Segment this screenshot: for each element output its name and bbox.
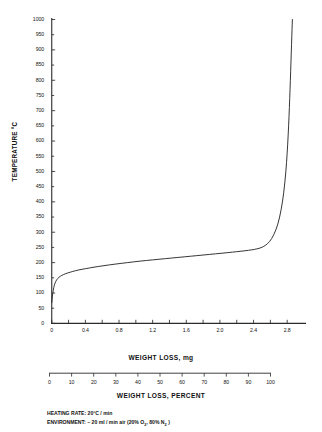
y-tick-label: 600 (36, 138, 44, 143)
percent-tick-label: 20 (91, 380, 97, 385)
y-tick-label: 300 (36, 230, 44, 235)
heating-rate-label: HEATING RATE: (47, 410, 86, 416)
x-tick-label: 0 (50, 328, 53, 333)
x-tick-label: 1.6 (183, 328, 190, 333)
percent-axis-ticks (50, 373, 271, 376)
y-axis-ticks (52, 20, 55, 324)
chart-notes: HEATING RATE: 20°C / min ENVIRONMENT: ~ … (47, 409, 170, 429)
environment-value-post: ) (167, 419, 170, 425)
percent-tick-label: 80 (224, 380, 230, 385)
tga-chart-figure: 0501001502002503003504004505005506006507… (0, 0, 322, 432)
percent-axis: 0102030405060708090100 (49, 372, 271, 388)
axis-lines (51, 18, 306, 324)
y-tick-label: 700 (36, 108, 44, 113)
y-axis-title: TEMPERATURE °C (11, 107, 18, 197)
heating-rate-value: 20°C / min (88, 410, 113, 416)
y-tick-label: 50 (38, 306, 44, 311)
y-tick-label: 1000 (33, 17, 44, 22)
percent-tick-label: 50 (157, 380, 163, 385)
percent-tick-label: 30 (113, 380, 119, 385)
x-tick-label: 2.0 (216, 328, 223, 333)
y-tick-label: 200 (36, 260, 44, 265)
y-tick-label: 650 (36, 123, 44, 128)
percent-tick-label: 100 (266, 380, 274, 385)
tga-curve (52, 20, 293, 303)
x-tick-label: 2.8 (284, 328, 291, 333)
y-tick-label: 750 (36, 93, 44, 98)
y-tick-label: 550 (36, 154, 44, 159)
environment-value-pre: ~ 20 ml / min air (20% O (87, 419, 144, 425)
percent-tick-label: 90 (246, 380, 252, 385)
percent-tick-label: 0 (48, 380, 51, 385)
y-tick-label: 100 (36, 290, 44, 295)
environment-value-mid: , 80% N (146, 419, 164, 425)
y-tick-label: 400 (36, 199, 44, 204)
x-axis-mg-tick-labels: 00.40.81.21.62.02.42.8 (51, 328, 306, 338)
y-tick-label: 150 (36, 275, 44, 280)
percent-tick-label: 70 (201, 380, 207, 385)
x-tick-label: 0.8 (116, 328, 123, 333)
plot-svg (51, 18, 306, 324)
y-tick-label: 250 (36, 245, 44, 250)
x-axis-mg-title: WEIGHT LOSS, mg (0, 354, 322, 361)
y-tick-label: 450 (36, 184, 44, 189)
x-axis-percent-title: WEIGHT LOSS, PERCENT (0, 392, 322, 399)
x-tick-label: 2.4 (250, 328, 257, 333)
percent-tick-label: 60 (179, 380, 185, 385)
y-tick-label: 850 (36, 62, 44, 67)
environment-note: ENVIRONMENT: ~ 20 ml / min air (20% O2, … (47, 418, 170, 428)
y-tick-label: 350 (36, 214, 44, 219)
y-tick-label: 500 (36, 169, 44, 174)
environment-label: ENVIRONMENT: (47, 419, 86, 425)
y-tick-label: 800 (36, 78, 44, 83)
y-axis-tick-labels: 0501001502002503003504004505005506006507… (0, 0, 51, 324)
y-tick-label: 0 (41, 321, 44, 326)
percent-tick-label: 10 (69, 380, 75, 385)
heating-rate-note: HEATING RATE: 20°C / min (47, 409, 170, 418)
y-tick-label: 900 (36, 47, 44, 52)
y-tick-label: 950 (36, 32, 44, 37)
plot-area (51, 18, 306, 324)
percent-tick-label: 40 (135, 380, 141, 385)
x-tick-label: 1.2 (149, 328, 156, 333)
x-tick-label: 0.4 (82, 328, 89, 333)
